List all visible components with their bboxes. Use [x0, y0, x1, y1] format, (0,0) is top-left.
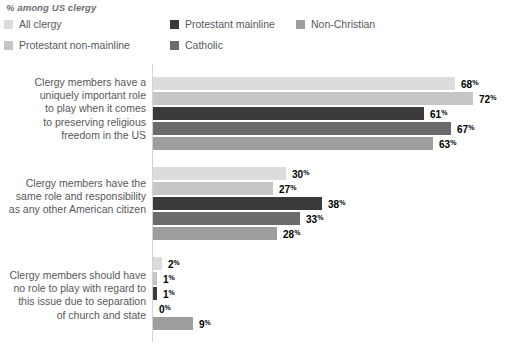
bar-group-no-role: Clergy members should haveno role to pla…: [0, 256, 510, 332]
bar[interactable]: [153, 122, 451, 135]
bar-row[interactable]: 67%: [153, 122, 474, 135]
bar-row[interactable]: 1%: [153, 287, 175, 300]
bar[interactable]: [153, 317, 193, 330]
bar-row[interactable]: 61%: [153, 107, 447, 120]
bar[interactable]: [153, 77, 455, 90]
legend-swatch-non-christian: [296, 20, 305, 29]
bar-value-label: 72%: [479, 91, 496, 106]
legend-label-all-clergy: All clergy: [19, 19, 62, 30]
bar-value-label: 2%: [168, 256, 180, 271]
category-label-line: of church and state: [0, 309, 146, 322]
bar-row[interactable]: 2%: [153, 257, 180, 270]
bar[interactable]: [153, 137, 433, 150]
bar-set-same-role: 30%27%38%33%28%: [153, 166, 510, 242]
bar[interactable]: [153, 257, 162, 270]
chart-legend: All clergy Protestant mainline Non-Chris…: [4, 19, 506, 59]
chart-title: % among US clergy: [6, 2, 96, 13]
category-label-line: uniquely important role: [0, 89, 146, 102]
bar-value-label: 67%: [457, 121, 474, 136]
bar-value-label: 1%: [163, 271, 175, 286]
bar-value-label: 9%: [199, 316, 211, 331]
bar[interactable]: [153, 167, 286, 180]
category-label-no-role: Clergy members should haveno role to pla…: [0, 269, 146, 322]
bar-value-label: 61%: [430, 106, 447, 121]
bar[interactable]: [153, 197, 322, 210]
legend-swatch-protestant-non-mainline: [4, 41, 13, 50]
bar-row[interactable]: 30%: [153, 167, 309, 180]
bar-set-unique-role: 68%72%61%67%63%: [153, 76, 510, 152]
legend-item-protestant-mainline[interactable]: Protestant mainline: [170, 19, 275, 30]
bar-row[interactable]: 72%: [153, 92, 496, 105]
category-label-line: this issue due to separation: [0, 295, 146, 308]
bar-row[interactable]: 28%: [153, 227, 300, 240]
bar-group-same-role: Clergy members have thesame role and res…: [0, 166, 510, 242]
category-label-line: Clergy members have the: [0, 177, 146, 190]
category-label-line: no role to play with regard to: [0, 282, 146, 295]
legend-label-protestant-mainline: Protestant mainline: [185, 19, 275, 30]
bar[interactable]: [153, 107, 424, 120]
bar[interactable]: [153, 272, 157, 285]
bar-row[interactable]: 0%: [153, 302, 171, 315]
bar-value-label: 30%: [292, 166, 309, 181]
bar-value-label: 27%: [279, 181, 296, 196]
legend-label-protestant-non-mainline: Protestant non-mainline: [19, 40, 130, 51]
category-label-line: to preserving religious: [0, 116, 146, 129]
bar-value-label: 1%: [163, 286, 175, 301]
bar[interactable]: [153, 92, 473, 105]
category-label-line: as any other American citizen: [0, 203, 146, 216]
legend-swatch-all-clergy: [4, 20, 13, 29]
bar-row[interactable]: 9%: [153, 317, 211, 330]
category-label-line: Clergy members should have: [0, 269, 146, 282]
legend-item-catholic[interactable]: Catholic: [170, 40, 223, 51]
legend-label-catholic: Catholic: [185, 40, 223, 51]
legend-item-all-clergy[interactable]: All clergy: [4, 19, 62, 30]
bar[interactable]: [153, 227, 277, 240]
bar-set-no-role: 2%1%1%0%9%: [153, 256, 510, 332]
legend-label-non-christian: Non-Christian: [311, 19, 375, 30]
legend-item-non-christian[interactable]: Non-Christian: [296, 19, 375, 30]
bar-group-unique-role: Clergy members have auniquely important …: [0, 76, 510, 152]
category-label-same-role: Clergy members have thesame role and res…: [0, 177, 146, 217]
bar-value-label: 0%: [159, 301, 171, 316]
bar[interactable]: [153, 287, 157, 300]
bar-value-label: 63%: [439, 136, 456, 151]
legend-swatch-protestant-mainline: [170, 20, 179, 29]
bar-row[interactable]: 68%: [153, 77, 478, 90]
legend-swatch-catholic: [170, 41, 179, 50]
bar-value-label: 68%: [461, 76, 478, 91]
bar-row[interactable]: 63%: [153, 137, 456, 150]
category-label-line: freedom in the US: [0, 129, 146, 142]
bar-row[interactable]: 38%: [153, 197, 345, 210]
bar-row[interactable]: 33%: [153, 212, 323, 225]
bar-value-label: 33%: [306, 211, 323, 226]
category-label-line: Clergy members have a: [0, 76, 146, 89]
bar-row[interactable]: 27%: [153, 182, 296, 195]
legend-item-protestant-non-mainline[interactable]: Protestant non-mainline: [4, 40, 130, 51]
category-label-unique-role: Clergy members have auniquely important …: [0, 76, 146, 142]
plot-area: Clergy members have auniquely important …: [0, 62, 510, 346]
category-label-line: same role and responsibility: [0, 190, 146, 203]
bar-value-label: 28%: [283, 226, 300, 241]
bar-value-label: 38%: [328, 196, 345, 211]
category-label-line: to play when it comes: [0, 102, 146, 115]
bar[interactable]: [153, 182, 273, 195]
bar[interactable]: [153, 212, 300, 225]
bar-row[interactable]: 1%: [153, 272, 175, 285]
